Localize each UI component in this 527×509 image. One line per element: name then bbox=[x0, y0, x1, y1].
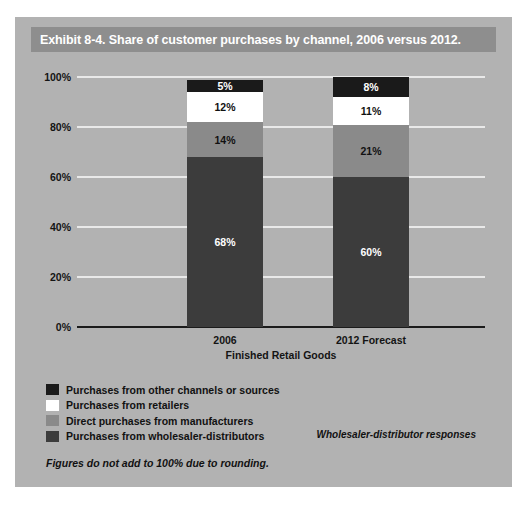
x-axis-title: Finished Retail Goods bbox=[77, 349, 485, 361]
legend-row: Direct purchases from manufacturers bbox=[46, 413, 486, 429]
stacked-bar: 5%12%14%68% bbox=[187, 80, 263, 328]
chart-legend: Purchases from other channels or sources… bbox=[46, 382, 486, 444]
legend-swatch bbox=[46, 431, 59, 442]
chart-plot-wrapper: 0%20%40%60%80%100% 5%12%14%68%8%11%21%60… bbox=[15, 62, 512, 362]
chart-plot-area: 5%12%14%68%8%11%21%60% bbox=[77, 77, 485, 327]
bar-segment-value-label: 8% bbox=[363, 81, 378, 93]
gridline bbox=[77, 276, 485, 278]
bar-segment: 12% bbox=[187, 92, 263, 122]
legend-row: Purchases from other channels or sources bbox=[46, 382, 486, 398]
legend-label: Purchases from retailers bbox=[66, 399, 189, 411]
gridline bbox=[77, 76, 485, 78]
bar-segment: 5% bbox=[187, 80, 263, 93]
bar-segment: 14% bbox=[187, 122, 263, 157]
exhibit-title-bar: Exhibit 8-4. Share of customer purchases… bbox=[31, 27, 496, 52]
bar-segment-value-label: 14% bbox=[214, 134, 235, 146]
legend-swatch bbox=[46, 415, 59, 426]
x-axis-category-label: 2006 bbox=[155, 334, 295, 346]
gridline bbox=[77, 126, 485, 128]
exhibit-title: Exhibit 8-4. Share of customer purchases… bbox=[31, 33, 461, 47]
bar-segment: 8% bbox=[333, 77, 409, 97]
exhibit-panel: Exhibit 8-4. Share of customer purchases… bbox=[15, 17, 512, 487]
bar-segment: 11% bbox=[333, 97, 409, 125]
y-axis-tick-label: 80% bbox=[50, 121, 71, 133]
stacked-bar: 8%11%21%60% bbox=[333, 77, 409, 327]
gridline bbox=[77, 226, 485, 228]
bar-segment-value-label: 12% bbox=[214, 101, 235, 113]
y-axis-tick-label: 0% bbox=[56, 321, 71, 333]
legend-label: Purchases from other channels or sources bbox=[66, 384, 280, 396]
bar-segment: 21% bbox=[333, 125, 409, 178]
bar-segment-value-label: 11% bbox=[361, 105, 381, 117]
legend-source-note: Wholesaler-distributor responses bbox=[317, 429, 476, 440]
y-axis-tick-label: 100% bbox=[44, 71, 71, 83]
y-axis-tick-label: 20% bbox=[50, 271, 71, 283]
legend-label: Purchases from wholesaler-distributors bbox=[66, 430, 264, 442]
legend-swatch bbox=[46, 400, 59, 411]
gridline bbox=[77, 176, 485, 178]
bar-segment-value-label: 68% bbox=[214, 236, 235, 248]
legend-swatch bbox=[46, 384, 59, 395]
chart-footnote: Figures do not add to 100% due to roundi… bbox=[46, 457, 269, 469]
legend-label: Direct purchases from manufacturers bbox=[66, 415, 253, 427]
bar-segment: 60% bbox=[333, 177, 409, 327]
y-axis-tick-labels: 0%20%40%60%80%100% bbox=[15, 77, 71, 327]
bar-segment-value-label: 60% bbox=[360, 246, 381, 258]
legend-row: Purchases from retailers bbox=[46, 398, 486, 414]
x-axis-category-label: 2012 Forecast bbox=[301, 334, 441, 346]
bar-segment-value-label: 5% bbox=[217, 80, 232, 92]
bar-segment-value-label: 21% bbox=[360, 145, 381, 157]
bar-segment: 68% bbox=[187, 157, 263, 327]
y-axis-tick-label: 60% bbox=[50, 171, 71, 183]
x-axis-line bbox=[77, 326, 485, 328]
y-axis-tick-label: 40% bbox=[50, 221, 71, 233]
